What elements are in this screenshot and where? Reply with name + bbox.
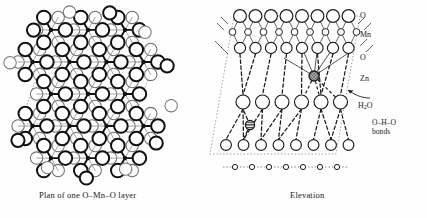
label-water-o: O xyxy=(367,101,373,110)
elevation-view-panel xyxy=(188,2,388,188)
label-manganese: Mn xyxy=(360,30,371,39)
label-oxygen-middle: O xyxy=(360,53,366,62)
label-water: H2O xyxy=(358,101,373,110)
caption-elevation: Elevation xyxy=(290,190,324,200)
plan-view-panel xyxy=(2,2,202,188)
label-oxygen-top: O xyxy=(360,11,366,20)
label-zinc: Zn xyxy=(360,74,369,83)
elevation-bottom-oxygen-row xyxy=(223,164,349,169)
label-hydrogen-bonds-line2: bonds xyxy=(372,127,390,136)
label-hydrogen-bonds-line1: O–H–O xyxy=(372,118,396,127)
figure-root: O Mn O Zn H2O O–H–O bonds Plan of one O–… xyxy=(0,0,427,218)
caption-plan: Plan of one O–Mn–O layer xyxy=(39,190,136,200)
elevation-unit-cell xyxy=(210,16,360,154)
